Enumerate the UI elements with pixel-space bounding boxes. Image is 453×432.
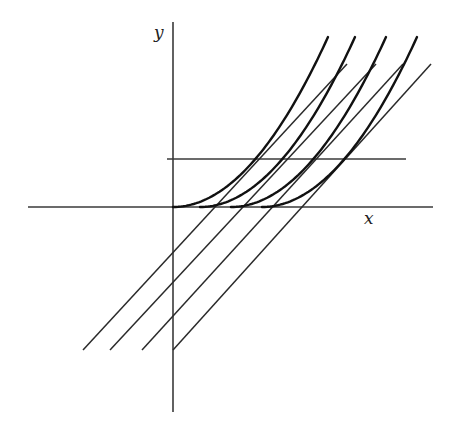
x-axis-label: x: [364, 208, 374, 228]
function-graph-diagram: y x: [0, 0, 453, 432]
curve-2: [200, 37, 355, 207]
y-axis-label: y: [153, 22, 164, 42]
curve-1: [173, 37, 328, 207]
